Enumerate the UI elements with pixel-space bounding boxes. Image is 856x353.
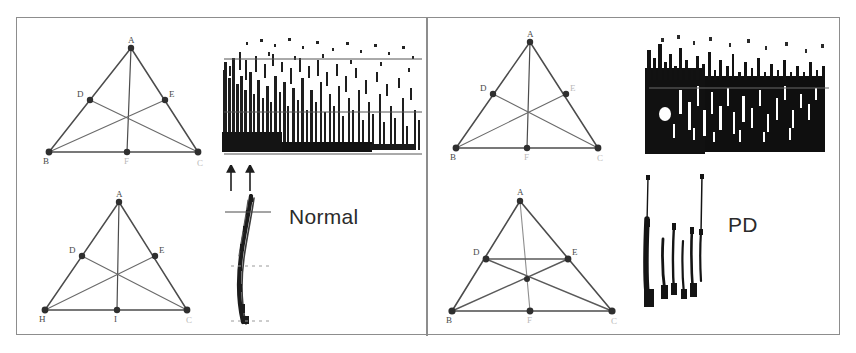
vertex-label-D: D xyxy=(77,89,84,99)
vertex-label-D: D xyxy=(473,247,480,257)
triangle-diagram-normal-lower: A D E H I C xyxy=(35,188,215,328)
vertex-label-A: A xyxy=(116,189,123,199)
vertex-label-B: B xyxy=(450,152,456,162)
vertex-label-C: C xyxy=(197,158,203,168)
emg-recording-normal xyxy=(222,32,422,164)
vertex-label-H: H xyxy=(39,314,46,324)
scanned-figure: A D E B F C xyxy=(0,0,856,353)
handwriting-trace-normal xyxy=(225,194,285,326)
vertex-label-C: C xyxy=(611,316,617,326)
vertex-label-A: A xyxy=(128,35,135,45)
vertex-label-C: C xyxy=(186,315,192,325)
vertex-label-E: E xyxy=(159,245,165,255)
triangle-diagram-pd-lower: A D E B F C xyxy=(442,183,632,328)
arrow-markers-normal xyxy=(225,165,271,195)
vertex-label-E: E xyxy=(572,247,578,257)
vertex-label-I: I xyxy=(114,314,117,324)
emg-recording-pd xyxy=(643,32,833,164)
vertex-label-B: B xyxy=(43,156,49,166)
vertex-label-F: F xyxy=(524,152,529,162)
vertex-label-F: F xyxy=(124,156,129,166)
vertex-label-C: C xyxy=(597,153,603,163)
panel-normal: A D E B F C xyxy=(17,18,426,336)
triangle-diagram-normal-upper: A D E B F C xyxy=(35,34,215,174)
panel-pd: A D E B F C xyxy=(428,18,837,336)
panel-caption-normal: Normal xyxy=(289,205,358,229)
vertex-label-B: B xyxy=(446,315,452,325)
vertex-label-E: E xyxy=(570,83,576,93)
vertex-label-E: E xyxy=(169,89,175,99)
vertex-label-D: D xyxy=(69,245,76,255)
handwriting-trace-pd xyxy=(638,173,748,323)
figure-frame: A D E B F C xyxy=(16,17,840,335)
vertex-label-A: A xyxy=(517,187,524,197)
vertex-label-F: F xyxy=(527,315,532,325)
vertex-label-A: A xyxy=(527,29,534,39)
triangle-diagram-pd-upper: A D E B F C xyxy=(444,28,624,168)
panel-caption-pd: PD xyxy=(728,213,758,237)
vertex-label-D: D xyxy=(480,83,487,93)
